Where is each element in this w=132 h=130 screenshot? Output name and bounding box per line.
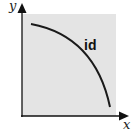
y-axis-label: y: [8, 0, 17, 13]
curve-label: id: [84, 37, 96, 53]
x-axis-label: x: [123, 117, 131, 130]
y-axis-arrow-icon: [18, 3, 27, 13]
diagram-canvas: y x id: [0, 0, 132, 130]
plot-area: [22, 14, 116, 116]
